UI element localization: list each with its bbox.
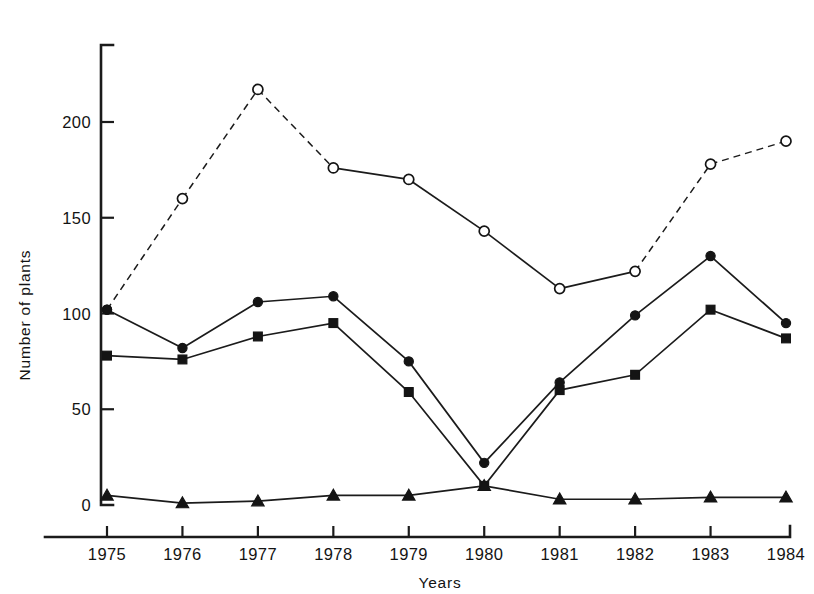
x-tick-label: 1977 [239, 545, 277, 563]
x-axis-line [45, 526, 790, 537]
series-segment [484, 231, 559, 288]
x-tick-label: 1982 [616, 545, 654, 563]
series-segment [107, 199, 182, 310]
series-polyline [107, 486, 786, 503]
x-tick-label: 1981 [541, 545, 579, 563]
data-point-marker [630, 266, 640, 276]
data-point-marker [103, 351, 112, 360]
data-point-marker [177, 194, 187, 204]
data-point-marker [479, 226, 489, 236]
data-point-marker [782, 334, 791, 343]
data-point-marker [555, 386, 564, 395]
x-tick-label: 1976 [163, 545, 201, 563]
series-open-circle-series [102, 84, 791, 314]
data-series-group [101, 84, 792, 507]
x-axis-title: Years [418, 574, 461, 591]
x-tick-label: 1978 [314, 545, 352, 563]
y-axis-line [101, 45, 113, 505]
series-segment [711, 141, 786, 164]
series-segment [333, 168, 408, 179]
series-segment [182, 89, 257, 198]
data-point-marker [178, 355, 187, 364]
data-point-marker [178, 343, 187, 352]
series-segment [635, 164, 710, 271]
data-point-marker [631, 370, 640, 379]
y-tick-label: 100 [62, 305, 91, 323]
data-point-marker [253, 84, 263, 94]
data-point-marker [404, 174, 414, 184]
series-polyline [107, 310, 786, 486]
x-tick-label: 1979 [390, 545, 428, 563]
series-segment [560, 271, 635, 288]
data-point-marker [329, 292, 338, 301]
data-point-marker [253, 297, 262, 306]
data-point-marker [781, 318, 790, 327]
series-segment [409, 179, 484, 231]
data-point-marker [328, 163, 338, 173]
series-segment [258, 89, 333, 168]
data-point-marker [102, 305, 111, 314]
axis-labels: Number of plants Years [16, 250, 462, 591]
y-tick-label: 0 [81, 496, 91, 514]
data-point-marker [329, 319, 338, 328]
series-filled-circle-series [102, 251, 790, 467]
x-axis-ticks: 1975197619771978197919801981198219831984 [88, 526, 805, 563]
data-point-marker [101, 489, 113, 500]
y-axis-title: Number of plants [16, 250, 33, 381]
data-point-marker [706, 251, 715, 260]
x-tick-label: 1983 [691, 545, 729, 563]
axes: 050100150200 197519761977197819791980198… [45, 45, 805, 563]
x-tick-label: 1980 [465, 545, 503, 563]
line-chart-svg: 050100150200 197519761977197819791980198… [0, 0, 814, 594]
data-point-marker [706, 305, 715, 314]
data-point-marker [631, 311, 640, 320]
data-point-marker [480, 458, 489, 467]
series-polyline [107, 256, 786, 463]
y-tick-label: 150 [62, 209, 91, 227]
x-tick-label: 1975 [88, 545, 126, 563]
data-point-marker [555, 284, 565, 294]
y-tick-label: 50 [72, 400, 91, 418]
chart-figure: 050100150200 197519761977197819791980198… [0, 0, 814, 594]
series-filled-triangle-series [101, 480, 792, 508]
y-tick-label: 200 [62, 113, 91, 131]
data-point-marker [253, 332, 262, 341]
data-point-marker [706, 159, 716, 169]
data-point-marker [404, 388, 413, 397]
data-point-marker [781, 136, 791, 146]
data-point-marker [404, 357, 413, 366]
x-tick-label: 1984 [767, 545, 805, 563]
